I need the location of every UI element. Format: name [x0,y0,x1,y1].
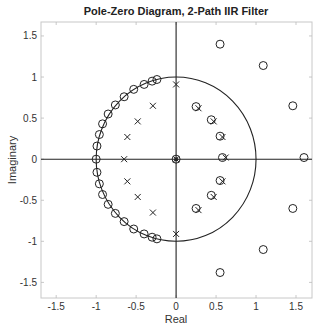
chart-title: Pole-Zero Diagram, 2-Path IIR Filter [84,5,269,17]
y-tick-label: -1.5 [20,277,38,288]
x-tick-label: -0.5 [128,301,146,312]
x-tick-label: -1.5 [48,301,66,312]
origin-dot [174,157,178,161]
y-tick-label: -0.5 [20,195,38,206]
y-tick-label: 0.5 [23,113,37,124]
y-tick-label: 1.5 [23,30,37,41]
y-tick-label: -1 [28,236,37,247]
y-tick-label: 0 [31,154,37,165]
y-tick-label: 1 [31,72,37,83]
x-axis-label: Real [165,313,188,325]
x-tick-label: 1 [253,301,259,312]
x-tick-label: 0.5 [209,301,223,312]
x-tick-label: 1.5 [289,301,303,312]
x-tick-label: -1 [92,301,101,312]
pole-zero-chart: Pole-Zero Diagram, 2-Path IIR Filter -1.… [0,0,322,328]
y-axis-label: Imaginary [6,135,18,184]
x-tick-label: 0 [173,301,179,312]
